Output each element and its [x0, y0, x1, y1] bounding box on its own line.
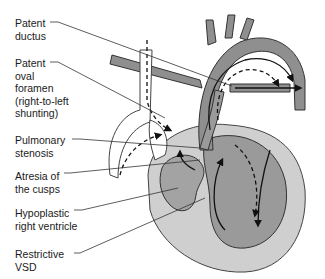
label-pulmonary-stenosis: Pulmonary stenosis	[15, 134, 65, 159]
label-atresia-of-cusps: Atresia of the cusps	[15, 170, 60, 195]
label-patent-ductus: Patent ductus	[15, 17, 46, 42]
pulmonary-artery-branch	[110, 55, 202, 88]
label-restrictive-vsd: Restrictive VSD	[15, 248, 64, 273]
label-hypoplastic-right-ventricle: Hypoplastic right ventricle	[15, 207, 77, 232]
carotid-vessel	[225, 15, 235, 38]
label-patent-oval-foramen: Patent oval foramen (right-to-left shunt…	[15, 57, 69, 120]
flow-arrow-aorta-dashed	[217, 70, 278, 120]
subclavian-vessel	[240, 18, 254, 40]
heart-diagram: Patent ductus Patent oval foramen (right…	[0, 0, 325, 279]
brachiocephalic-vessel	[206, 20, 216, 45]
